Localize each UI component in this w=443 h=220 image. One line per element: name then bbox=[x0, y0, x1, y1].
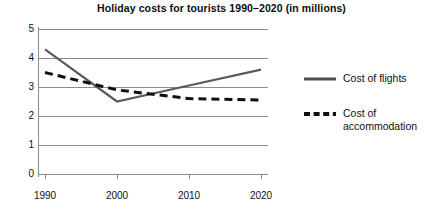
x-tick-label: 1990 bbox=[22, 190, 68, 201]
chart-title: Holiday costs for tourists 1990–2020 (in… bbox=[0, 2, 443, 14]
y-tick-label: 4 bbox=[8, 53, 34, 63]
x-tick-label: 2020 bbox=[238, 190, 284, 201]
legend-label-cost-of-accommodation: Cost of accommodation bbox=[337, 107, 439, 132]
y-tick-label: 0 bbox=[8, 169, 34, 179]
legend-label-cost-of-flights: Cost of flights bbox=[337, 72, 407, 85]
legend-item-cost-of-accommodation: Cost of accommodation bbox=[303, 107, 443, 132]
x-tick bbox=[189, 174, 190, 179]
series-lines bbox=[38, 29, 268, 174]
y-axis-labels: 543210 bbox=[0, 0, 34, 220]
x-tick-label: 2000 bbox=[94, 190, 140, 201]
legend-item-cost-of-flights: Cost of flights bbox=[303, 72, 443, 85]
y-tick-label: 1 bbox=[8, 140, 34, 150]
chart-legend: Cost of flights Cost of accommodation bbox=[303, 72, 443, 154]
y-tick-label: 5 bbox=[8, 24, 34, 34]
y-tick-label: 2 bbox=[8, 111, 34, 121]
plot-area bbox=[38, 29, 268, 174]
x-tick bbox=[45, 174, 46, 179]
gridline bbox=[38, 174, 268, 175]
x-tick bbox=[261, 174, 262, 179]
y-tick-label: 3 bbox=[8, 82, 34, 92]
solid-line-swatch bbox=[303, 73, 337, 85]
x-tick bbox=[117, 174, 118, 179]
dashed-line-swatch bbox=[303, 108, 337, 120]
x-tick-label: 2010 bbox=[166, 190, 212, 201]
chart-figure: Holiday costs for tourists 1990–2020 (in… bbox=[0, 0, 443, 220]
